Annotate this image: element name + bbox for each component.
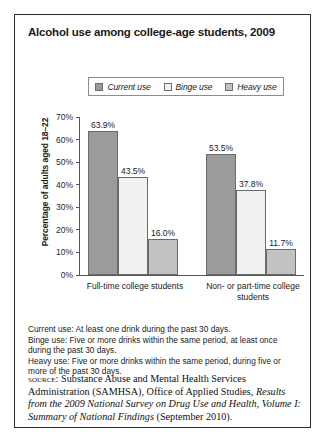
source-text-after: (September 2010).: [154, 411, 232, 422]
legend-swatch-icon: [164, 83, 172, 91]
y-axis-tick-label: 30%: [56, 202, 73, 212]
y-axis-tick-label: 50%: [56, 157, 73, 167]
source-label: source:: [28, 373, 59, 384]
y-axis-tick: 40%: [56, 180, 80, 190]
y-axis-tick-mark: [76, 252, 80, 253]
y-axis-tick-mark: [76, 117, 80, 118]
y-axis-tick-label: 20%: [56, 225, 73, 235]
y-axis-tick: 0%: [61, 270, 80, 280]
x-axis-category-label: Non- or part-time college students: [198, 281, 308, 302]
legend-item-current-use[interactable]: Current use: [95, 82, 150, 92]
y-axis-tick: 20%: [56, 225, 80, 235]
bar-value-label: 63.9%: [91, 120, 115, 130]
chart-plot-wrapper: Percentage of adults aged 18–22 70%60%50…: [15, 103, 311, 313]
bar-group-bars: 63.9%43.5%16.0%: [88, 117, 182, 275]
legend-label: Current use: [107, 82, 150, 92]
bar-current-use[interactable]: 53.5%: [206, 154, 236, 275]
y-axis-tick-label: 60%: [56, 135, 73, 145]
y-axis-tick-mark: [76, 162, 80, 163]
y-axis-tick-label: 70%: [56, 112, 73, 122]
bar-group: 63.9%43.5%16.0%Full-time college student…: [88, 117, 182, 275]
bar-group: 53.5%37.8%11.7%Non- or part-time college…: [206, 117, 300, 275]
y-axis-tick-mark: [76, 139, 80, 140]
page-title: Alcohol use among college-age students, …: [28, 26, 300, 39]
source-text-before: Substance Abuse and Mental Health Servic…: [28, 373, 256, 397]
y-axis-tick-mark: [76, 207, 80, 208]
note-line: Binge use: Five or more drinks within th…: [28, 335, 300, 356]
y-axis-tick: 70%: [56, 112, 80, 122]
y-axis-tick: 50%: [56, 157, 80, 167]
y-axis-tick: 10%: [56, 247, 80, 257]
bar-heavy-use[interactable]: 11.7%: [266, 249, 296, 275]
figure-container: Alcohol use among college-age students, …: [14, 14, 311, 428]
bar-heavy-use[interactable]: 16.0%: [148, 239, 178, 275]
legend-item-heavy-use[interactable]: Heavy use: [225, 82, 276, 92]
plot-area: 70%60%50%40%30%20%10%0%63.9%43.5%16.0%Fu…: [79, 117, 304, 276]
y-axis-tick-label: 0%: [61, 270, 73, 280]
y-axis-tick: 30%: [56, 202, 80, 212]
bar-value-label: 16.0%: [151, 228, 175, 238]
legend-swatch-icon: [225, 83, 233, 91]
legend-label: Heavy use: [237, 82, 276, 92]
y-axis-title: Percentage of adults aged 18–22: [40, 108, 50, 256]
legend-swatch-icon: [95, 83, 103, 91]
bar-value-label: 53.5%: [209, 143, 233, 153]
legend-label: Binge use: [176, 82, 213, 92]
source-citation: source: Substance Abuse and Mental Healt…: [28, 373, 302, 423]
y-axis-tick-label: 40%: [56, 180, 73, 190]
chart-notes: Current use: At least one drink during t…: [28, 324, 300, 377]
bar-value-label: 11.7%: [269, 238, 292, 248]
chart-legend: Current useBinge useHeavy use: [88, 77, 284, 96]
y-axis-tick-mark: [76, 184, 80, 185]
bar-binge-use[interactable]: 43.5%: [118, 177, 148, 275]
y-axis-tick: 60%: [56, 135, 80, 145]
note-line: Current use: At least one drink during t…: [28, 324, 300, 335]
bar-current-use[interactable]: 63.9%: [88, 131, 118, 275]
y-axis-tick-label: 10%: [56, 247, 73, 257]
bar-group-bars: 53.5%37.8%11.7%: [206, 117, 300, 275]
x-axis-category-label: Full-time college students: [80, 281, 190, 292]
bar-value-label: 37.8%: [239, 179, 263, 189]
legend-item-binge-use[interactable]: Binge use: [164, 82, 213, 92]
bar-binge-use[interactable]: 37.8%: [236, 190, 266, 275]
y-axis-tick-mark: [76, 275, 80, 276]
bar-value-label: 43.5%: [121, 166, 145, 176]
y-axis-tick-mark: [76, 229, 80, 230]
